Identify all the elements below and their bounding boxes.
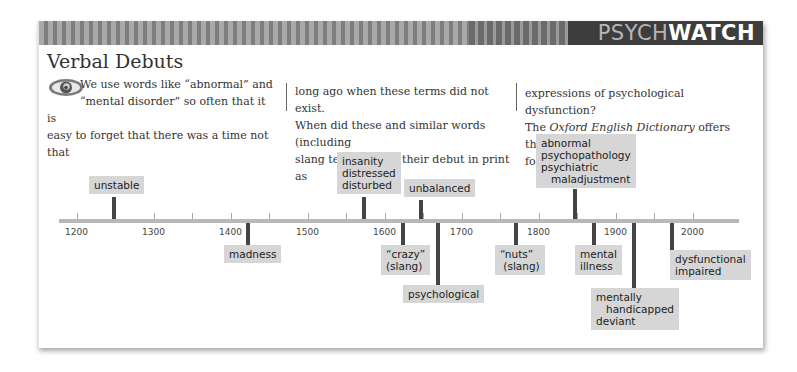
column-divider-2 xyxy=(516,83,517,111)
article-title: Verbal Debuts xyxy=(47,50,183,72)
psychwatch-panel: PSYCHWATCH Verbal Debuts We use words li… xyxy=(37,21,763,348)
stem-dysfunctional xyxy=(670,223,674,250)
col3-line2-pre: The xyxy=(525,121,549,134)
tick xyxy=(462,213,463,219)
header-stripes xyxy=(39,21,469,45)
column-divider-1 xyxy=(286,83,287,111)
label-mentally-group: mentally handicapped deviant xyxy=(591,288,679,330)
stem-crazy xyxy=(401,223,405,245)
label-unbalanced: unbalanced xyxy=(404,179,475,197)
stem-unstable xyxy=(112,197,116,219)
tick xyxy=(500,213,501,219)
col1-line2: “mental disorder” so often that it is xyxy=(47,95,266,125)
tick xyxy=(192,213,193,219)
header-stripes-dark xyxy=(469,21,569,45)
year-label: 1700 xyxy=(450,227,473,237)
year-label: 1800 xyxy=(527,227,550,237)
brand-part1: PSYCH xyxy=(598,21,669,45)
stem-psychological xyxy=(436,223,440,285)
year-label: 1600 xyxy=(373,227,396,237)
year-label: 1500 xyxy=(296,227,319,237)
label-madness: madness xyxy=(224,245,281,263)
stem-abnormal xyxy=(573,189,577,219)
text-column-2: long ago when these terms did not exist.… xyxy=(295,83,515,185)
timeline-axis xyxy=(59,219,739,223)
tick xyxy=(77,213,78,219)
col1-line1: We use words like “abnormal” and xyxy=(80,78,273,91)
year-label: 1900 xyxy=(604,227,627,237)
dictionary-title: Oxford English Dictionary xyxy=(549,121,694,134)
tick xyxy=(385,213,386,219)
stem-insanity xyxy=(362,197,366,219)
col2-line2: When did these and similar words (includ… xyxy=(295,117,515,151)
year-label: 1300 xyxy=(142,227,165,237)
header-bar: PSYCHWATCH xyxy=(39,21,763,45)
col2-line1: long ago when these terms did not exist. xyxy=(295,83,515,117)
tick xyxy=(616,213,617,219)
tick xyxy=(269,213,270,219)
label-unstable: unstable xyxy=(89,176,144,194)
tick xyxy=(577,213,578,219)
stem-nuts xyxy=(514,223,518,245)
label-mental-illness: mental illness xyxy=(575,245,622,275)
stem-mentally-handicapped xyxy=(632,223,636,288)
year-label: 2000 xyxy=(681,227,704,237)
year-label: 1400 xyxy=(219,227,242,237)
stem-unbalanced xyxy=(419,200,423,219)
tick xyxy=(154,213,155,219)
label-nuts: “nuts” (slang) xyxy=(495,245,545,275)
label-abnormal-group: abnormal psychopathology psychiatric mal… xyxy=(536,134,636,188)
tick xyxy=(539,213,540,219)
col1-line3: easy to forget that there was a time not… xyxy=(47,127,277,161)
col3-line1: expressions of psychological dysfunction… xyxy=(525,85,750,119)
tick xyxy=(693,213,694,219)
tick xyxy=(654,213,655,219)
tick xyxy=(423,213,424,219)
stem-madness xyxy=(246,223,250,245)
tick xyxy=(231,213,232,219)
tick xyxy=(308,213,309,219)
brand-part2: WATCH xyxy=(668,21,755,45)
label-insanity-group: insanity distressed disturbed xyxy=(337,152,401,194)
brand-logo: PSYCHWATCH xyxy=(568,21,763,45)
stem-mental-illness xyxy=(592,223,596,245)
text-column-1: We use words like “abnormal” and “mental… xyxy=(47,76,277,161)
year-label: 1200 xyxy=(65,227,88,237)
label-dysfunctional-group: dysfunctional impaired xyxy=(670,250,751,280)
label-crazy: “crazy” (slang) xyxy=(381,245,430,275)
label-psychological: psychological xyxy=(403,285,484,303)
tick xyxy=(346,213,347,219)
